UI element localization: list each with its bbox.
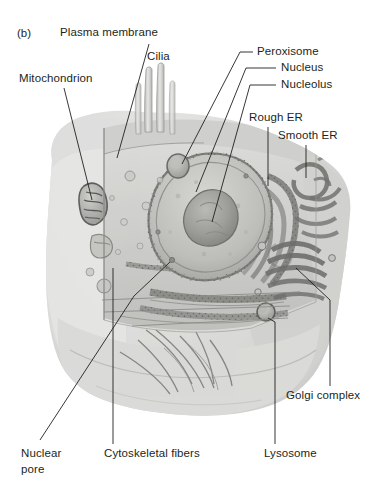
- nucleus-structure: [148, 153, 272, 280]
- label-lysosome: Lysosome: [264, 447, 317, 461]
- label-nucleus: Nucleus: [281, 61, 323, 75]
- label-cilia: Cilia: [147, 50, 170, 64]
- label-nuclear-pore-line2: pore: [21, 463, 44, 477]
- peroxisome-shape: [167, 154, 189, 178]
- cell-diagram-figure: (b) Plasma membrane Cilia Mitochondrion …: [0, 0, 376, 500]
- nuclear-pore-shape: [169, 257, 174, 262]
- panel-label: (b): [17, 27, 31, 39]
- label-smooth-er: Smooth ER: [278, 129, 338, 143]
- label-rough-er: Rough ER: [249, 111, 303, 125]
- label-plasma-membrane: Plasma membrane: [60, 26, 158, 40]
- mitochondrion-shape: [79, 183, 107, 225]
- label-cytoskeletal-fibers: Cytoskeletal fibers: [104, 447, 200, 461]
- lysosome-shape: [257, 303, 275, 321]
- label-peroxisome: Peroxisome: [257, 45, 319, 59]
- label-golgi-complex: Golgi complex: [286, 389, 360, 403]
- label-nucleolus: Nucleolus: [281, 78, 332, 92]
- label-mitochondrion: Mitochondrion: [19, 72, 93, 86]
- label-nuclear-pore-line1: Nuclear: [21, 447, 61, 461]
